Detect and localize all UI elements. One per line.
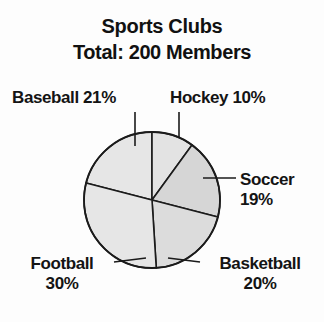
pie-label-basketball-name: Basketball	[202, 254, 318, 274]
pie-label-football: Football 30%	[14, 254, 110, 294]
pie-label-hockey: Hockey 10%	[170, 88, 265, 108]
pie-label-soccer-name: Soccer	[240, 170, 294, 190]
pie-label-baseball: Baseball 21%	[12, 88, 116, 108]
pie-label-basketball: Basketball 20%	[202, 254, 318, 294]
pie-label-soccer: Soccer 19%	[240, 170, 294, 210]
pie-label-football-name: Football	[14, 254, 110, 274]
pie-chart-figure: Sports Clubs Total: 200 Members Baseball…	[0, 0, 324, 322]
pie-label-soccer-value: 19%	[240, 190, 294, 210]
pie-label-basketball-value: 20%	[202, 274, 318, 294]
pie-label-football-value: 30%	[14, 274, 110, 294]
